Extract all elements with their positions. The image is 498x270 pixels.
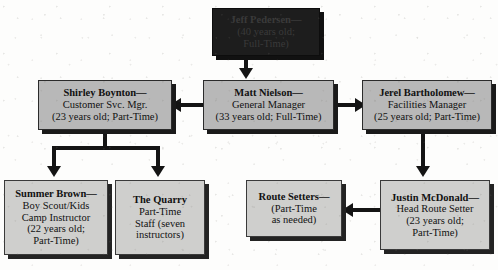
node-ceo-line-1: (40 years old;	[237, 26, 295, 38]
arrowhead-head-route-setter-to-route-setters	[342, 203, 353, 217]
node-ceo-line-0: Jeff Pedersen—	[231, 14, 302, 26]
node-the-quarry-staff-line-0: The Quarry	[133, 194, 187, 206]
node-head-route-setter-line-0: Justin McDonald—	[391, 192, 479, 204]
node-route-setters-line-1: (Part-Time	[271, 203, 317, 215]
node-facilities-manager-line-0: Jerel Bartholomew—	[379, 87, 475, 99]
node-facilities-manager-line-2: (25 years old; Part-Time)	[374, 111, 480, 123]
node-head-route-setter-line-3: Part-Time)	[412, 227, 458, 239]
node-route-setters-line-2: as needed)	[272, 214, 317, 226]
node-camp-instructor-line-4: Part-Time)	[33, 235, 79, 247]
connector-customer-service-manager-to-camp-instructor	[52, 146, 56, 168]
node-camp-instructor-line-3: (22 years old;	[27, 223, 85, 235]
node-facilities-manager[interactable]: Jerel Bartholomew— Facilities Manager (2…	[362, 80, 492, 130]
node-the-quarry-staff-line-3: instructors)	[136, 229, 184, 241]
arrowhead-facilities-manager-to-head-route-setter	[416, 166, 430, 177]
node-general-manager-line-1: General Manager	[232, 99, 305, 111]
node-general-manager-line-2: (33 years old; Full-Time)	[215, 111, 321, 123]
node-route-setters[interactable]: Route Setters— (Part-Time as needed)	[246, 180, 342, 237]
node-general-manager-line-0: Matt Nielson—	[234, 87, 303, 99]
connector-facilities-manager-to-head-route-setter	[421, 130, 425, 168]
arrowhead-ceo-to-general-manager	[239, 68, 253, 79]
node-the-quarry-staff-line-1: Part-Time	[139, 206, 181, 218]
node-facilities-manager-line-1: Facilities Manager	[388, 99, 466, 111]
node-camp-instructor[interactable]: Summer Brown— Boy Scout/Kids Camp Instru…	[4, 180, 108, 255]
node-camp-instructor-line-2: Camp Instructor	[22, 212, 91, 224]
node-customer-service-manager[interactable]: Shirley Boynton— Customer Svc. Mgr. (23 …	[38, 80, 172, 130]
node-general-manager[interactable]: Matt Nielson— General Manager (33 years …	[203, 80, 334, 130]
node-customer-service-manager-line-0: Shirley Boynton—	[63, 87, 146, 99]
node-ceo[interactable]: Jeff Pedersen— (40 years old; Full-Time)	[212, 8, 320, 56]
node-camp-instructor-line-1: Boy Scout/Kids	[23, 200, 90, 212]
node-head-route-setter-line-2: (23 years old;	[406, 215, 464, 227]
node-the-quarry-staff[interactable]: The Quarry Part-Time Staff (seven instru…	[115, 180, 205, 255]
node-customer-service-manager-line-2: (23 years old; Part-Time)	[52, 111, 158, 123]
arrowhead-customer-service-manager-to-camp-instructor	[47, 166, 61, 177]
arrowhead-customer-service-manager-to-quarry-staff	[151, 166, 165, 177]
connector-customer-service-manager-bus	[52, 146, 160, 150]
node-customer-service-manager-line-1: Customer Svc. Mgr.	[63, 99, 148, 111]
org-chart: Jeff Pedersen— (40 years old; Full-Time)…	[0, 0, 498, 270]
node-route-setters-line-0: Route Setters—	[259, 191, 330, 203]
connector-customer-service-manager-to-quarry-staff	[156, 146, 160, 168]
node-head-route-setter[interactable]: Justin McDonald— Head Route Setter (23 y…	[380, 180, 490, 250]
node-ceo-line-2: Full-Time)	[243, 38, 289, 50]
node-the-quarry-staff-line-2: Staff (seven	[135, 218, 185, 230]
node-head-route-setter-line-1: Head Route Setter	[397, 203, 474, 215]
node-camp-instructor-line-0: Summer Brown—	[15, 188, 97, 200]
